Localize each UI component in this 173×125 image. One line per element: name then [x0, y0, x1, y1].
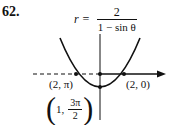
point-2-0	[122, 72, 126, 76]
label-2-0: (2, 0)	[126, 78, 150, 90]
label-theta-fraction: 3π 2	[68, 98, 82, 121]
right-paren: )	[83, 93, 93, 125]
point-1-3pi-2	[98, 85, 102, 89]
pole-point	[98, 72, 102, 76]
theta-denominator: 2	[73, 111, 78, 121]
point-2-pi	[74, 72, 78, 76]
label-r: 1,	[56, 103, 64, 115]
arrow-icon	[157, 71, 166, 78]
left-paren: (	[46, 93, 56, 125]
label-1-3pi-2: ( 1, 3π 2 )	[46, 94, 93, 124]
label-2-pi: (2, π)	[49, 78, 73, 90]
theta-numerator: 3π	[70, 98, 80, 108]
